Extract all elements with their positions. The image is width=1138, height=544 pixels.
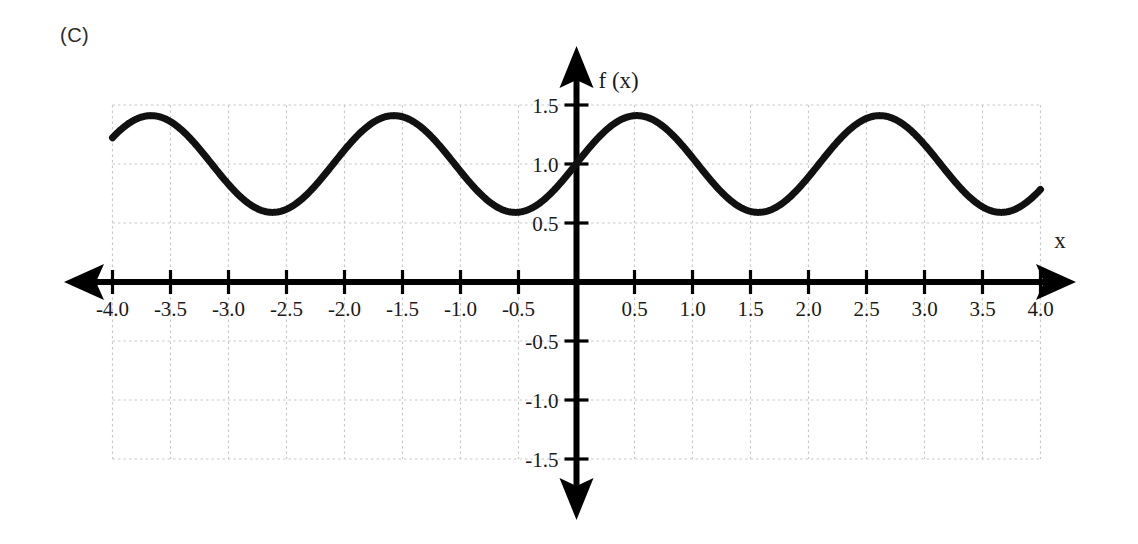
y-tick-label: 0.5 — [532, 212, 558, 236]
x-tick-label: -1.5 — [386, 297, 419, 321]
y-tick-label: -0.5 — [525, 330, 558, 354]
figure-panel: (C) -4.0-3.5-3.0-2.5-2.0-1.5-1.0-0.50.51… — [0, 0, 1138, 544]
x-tick-label: -4.0 — [96, 297, 129, 321]
axis-names: f (x)x — [599, 68, 1067, 253]
x-tick-label: -2.0 — [328, 297, 361, 321]
x-axis-label: x — [1054, 228, 1066, 253]
y-tick-label: 1.5 — [532, 94, 558, 118]
x-tick-label: 2.0 — [795, 297, 821, 321]
y-tick-label: 1.0 — [532, 153, 558, 177]
x-tick-label: -2.5 — [270, 297, 303, 321]
x-tick-label: 3.5 — [969, 297, 995, 321]
x-tick-label: 0.5 — [621, 297, 647, 321]
x-tick-label: 3.0 — [911, 297, 937, 321]
x-tick-label: 4.0 — [1027, 297, 1053, 321]
y-axis-label: f (x) — [599, 68, 639, 93]
x-tick-label: 1.0 — [679, 297, 705, 321]
y-tick-label: -1.0 — [525, 389, 558, 413]
x-tick-label: -0.5 — [502, 297, 535, 321]
x-tick-label: 2.5 — [853, 297, 879, 321]
x-tick-label: -1.0 — [444, 297, 477, 321]
y-tick-label: -1.5 — [525, 448, 558, 472]
x-tick-label: -3.5 — [154, 297, 187, 321]
x-tick-label: 1.5 — [737, 297, 763, 321]
x-tick-label: -3.0 — [212, 297, 245, 321]
plot-canvas: -4.0-3.5-3.0-2.5-2.0-1.5-1.0-0.50.51.01.… — [0, 0, 1138, 544]
